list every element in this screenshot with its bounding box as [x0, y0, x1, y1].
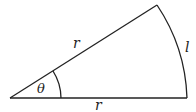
sector-diagram: r l θ r	[0, 0, 196, 112]
upper-radius-line	[10, 5, 157, 98]
upper-radius-label: r	[73, 35, 81, 51]
arc-l	[157, 5, 187, 98]
lower-radius-label: r	[95, 97, 103, 112]
angle-label: θ	[37, 81, 45, 96]
angle-arc	[53, 71, 61, 98]
arc-length-label: l	[185, 39, 189, 55]
